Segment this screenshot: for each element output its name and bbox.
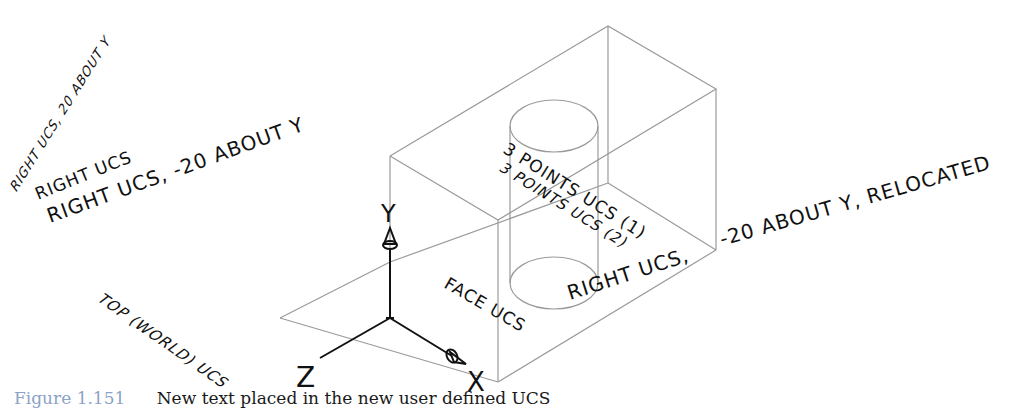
axis-y-label: Y bbox=[380, 200, 397, 228]
label-3-points-ucs-1: 3 POINTS UCS (1) bbox=[500, 138, 650, 242]
figure-caption-text: New text placed in the new user defined … bbox=[157, 388, 551, 408]
box-wireframe bbox=[280, 26, 716, 382]
ucs-drawing: Y Z X RIGHT UCS, 20 ABOUT Y RIGHT UCS RI… bbox=[0, 0, 1016, 412]
figure-caption: Figure 1.151 New text placed in the new … bbox=[14, 388, 550, 408]
label-right-ucs-relocated-start: RIGHT UCS, bbox=[564, 243, 692, 305]
figure-number: Figure 1.151 bbox=[14, 388, 125, 408]
label-face-ucs: FACE UCS bbox=[441, 273, 530, 336]
label-right-ucs-relocated-end: -20 ABOUT Y, RELOCATED bbox=[717, 150, 994, 251]
label-top-world-ucs: TOP (WORLD) UCS bbox=[92, 291, 234, 391]
ucs-icon bbox=[320, 228, 466, 365]
